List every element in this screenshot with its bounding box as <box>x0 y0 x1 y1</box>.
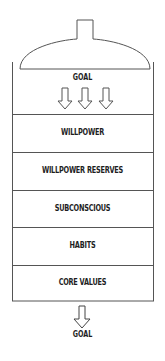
layer-core-values: CORE VALUES <box>25 278 141 288</box>
top-goal-label: GOAL <box>17 73 149 82</box>
layer-habits: HABITS <box>25 241 141 251</box>
layer-willpower: WILLPOWER <box>25 128 141 138</box>
down-arrow-icon <box>78 88 92 109</box>
down-arrow-icon <box>99 88 113 109</box>
container-outline <box>0 0 165 361</box>
lid-shape <box>20 20 150 69</box>
down-arrow-icon <box>74 306 90 328</box>
bottom-goal-label: GOAL <box>17 330 149 339</box>
willpower-container-diagram: GOAL WILLPOWER WILLPOWER RESERVES SUBCON… <box>0 0 165 361</box>
down-arrow-icon <box>58 88 72 109</box>
layer-willpower-reserves: WILLPOWER RESERVES <box>25 166 141 176</box>
layer-subconscious: SUBCONSCIOUS <box>25 204 141 214</box>
